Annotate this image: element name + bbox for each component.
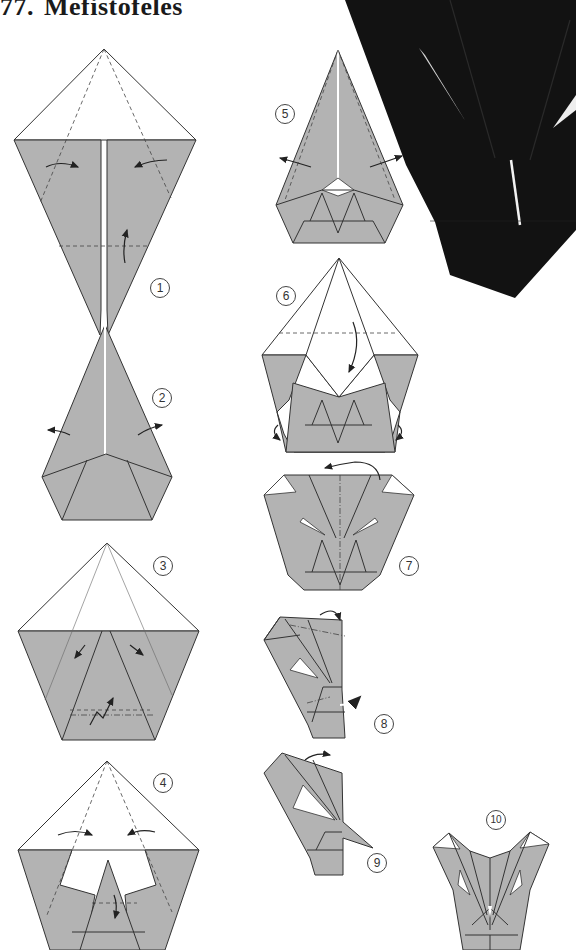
step-9-label: 9 [367,853,387,873]
step-6-label: 6 [276,286,296,306]
step-3-label: 3 [153,556,173,576]
diagram-canvas [0,0,576,950]
step-1-label: 1 [150,278,170,298]
step-8-label: 8 [374,714,394,734]
step-4-diagram [18,761,199,950]
step-4-label: 4 [153,773,173,793]
step-10-label: 10 [486,810,506,830]
step-7-label: 7 [399,556,419,576]
step-2-label: 2 [152,388,172,408]
step-5-label: 5 [275,104,295,124]
step-2-diagram [42,325,172,520]
step-7-diagram [264,462,414,590]
step-9-diagram [264,753,373,875]
step-3-diagram [18,543,199,740]
step-8-diagram [264,611,360,738]
step-10-diagram [433,832,549,950]
